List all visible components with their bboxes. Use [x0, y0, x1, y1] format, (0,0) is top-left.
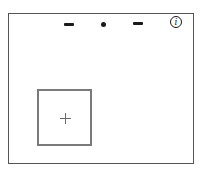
dash-icon [64, 23, 74, 26]
inner-box [37, 89, 92, 146]
outer-frame [8, 13, 194, 164]
dot-icon [101, 22, 106, 27]
plus-icon-vertical [65, 113, 66, 124]
info-icon[interactable]: i [170, 16, 182, 28]
dash-icon [133, 22, 143, 25]
diagram-canvas: i [0, 0, 206, 170]
